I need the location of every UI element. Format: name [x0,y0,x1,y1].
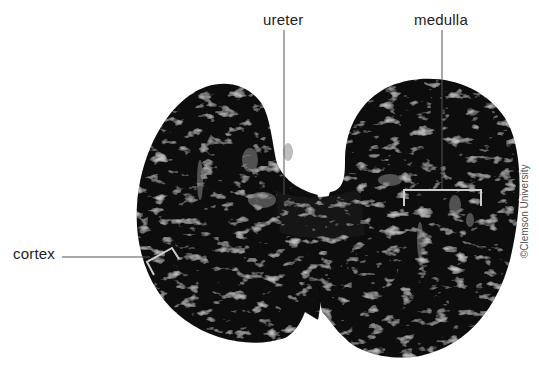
cortex-label: cortex [13,245,55,262]
kidney-specimen-photo [0,0,539,376]
medulla-label: medulla [414,11,468,28]
copyright-credit: ©Clemson University [519,164,530,258]
kidney-figure: ureter medulla cortex ©Clemson Universit… [0,0,539,376]
ureter-label: ureter [263,11,303,28]
hilum-region [275,188,365,238]
